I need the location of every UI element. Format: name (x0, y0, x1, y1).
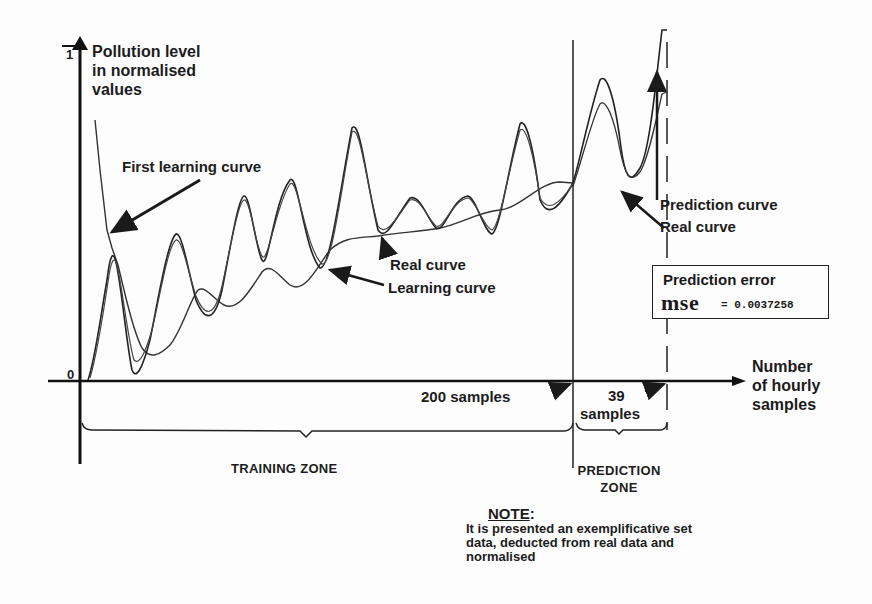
first-learning-curve-label: First learning curve (122, 158, 261, 175)
prediction-error-title: Prediction error (663, 271, 776, 288)
prediction-curve-label: Prediction curve (660, 196, 778, 213)
training-zone-label: TRAINING ZONE (231, 460, 337, 477)
mse-label: mse (661, 290, 699, 316)
prediction-zone-brace (576, 423, 667, 434)
real-curve-training-label: Real curve (390, 256, 466, 273)
training-zone-brace (82, 423, 573, 437)
prediction-samples-unit: samples (580, 405, 640, 422)
real-curve-training-arrow (382, 238, 388, 256)
y-tick-max: 1 (66, 46, 73, 63)
real-curve-prediction-label: Real curve (660, 218, 736, 235)
prediction-error-box: Prediction error mse = 0.0037258 (652, 265, 829, 319)
x-axis-title: Number of hourly samples (752, 357, 820, 414)
prediction-zone-label: PREDICTION ZONE (569, 462, 669, 496)
y-axis-title: Pollution level in normalised values (92, 42, 200, 99)
x-axis (48, 376, 746, 386)
200-samples-arrow (552, 384, 570, 391)
first-learning-curve-arrow (112, 180, 200, 232)
y-tick-zero: 0 (67, 366, 74, 383)
39-samples-arrow (645, 384, 664, 391)
training-samples-label: 200 samples (421, 388, 510, 405)
mse-value: = 0.0037258 (721, 299, 794, 311)
note-body: It is presented an exemplificative set d… (466, 522, 692, 564)
learning-curve-arrow (330, 270, 384, 285)
y-axis (62, 36, 88, 464)
first-learning-curve-line (95, 120, 573, 355)
note-heading: NOTE: (488, 505, 535, 522)
learning-curve-label: Learning curve (388, 279, 496, 296)
prediction-samples-count: 39 (608, 387, 625, 404)
